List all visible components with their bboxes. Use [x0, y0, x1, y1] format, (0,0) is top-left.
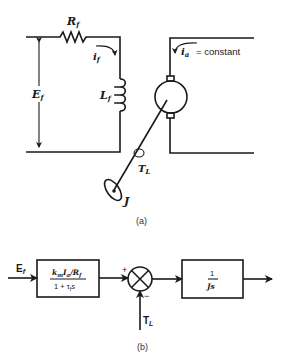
- caption-a: (a): [136, 216, 147, 226]
- resistor-label: Rf: [66, 15, 81, 29]
- block-diagram: [8, 260, 272, 330]
- input-label: Ef: [16, 263, 26, 275]
- block1-numerator: kmIa/Rf: [52, 268, 83, 279]
- block2-numerator: 1: [210, 269, 214, 278]
- caption-b: (b): [137, 342, 148, 352]
- armature-current-label: ia: [181, 46, 190, 59]
- inertia-label: J: [122, 195, 130, 208]
- inductor-label: Lf: [99, 89, 113, 103]
- sum-plus-sign: +: [122, 265, 127, 275]
- armature-current-constant: = constant: [196, 46, 240, 57]
- dc-motor-diagram: Rf if Ef Lf ia = constant TL J (a): [0, 0, 286, 361]
- block1-denominator: 1 + τfs: [54, 282, 75, 292]
- shaft-icon: [114, 100, 167, 190]
- motor-armature-icon: [155, 81, 187, 113]
- resistor-icon: [26, 32, 120, 79]
- brush-bottom-icon: [167, 113, 174, 118]
- sum-minus-sign: −: [144, 291, 149, 301]
- disturbance-label: TL: [143, 315, 153, 327]
- field-current-arrow-icon: [96, 46, 115, 55]
- block2-denominator: Js: [205, 282, 216, 291]
- inductor-icon: [115, 79, 126, 111]
- load-torque-label: TL: [138, 163, 150, 176]
- field-current-label: if: [93, 51, 102, 64]
